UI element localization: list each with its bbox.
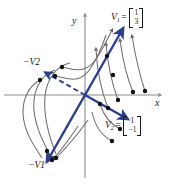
v1-entry-1: 3 bbox=[134, 18, 138, 27]
initial-point bbox=[38, 78, 42, 82]
phase-portrait-canvas bbox=[0, 0, 173, 184]
trajectory-curve bbox=[23, 80, 42, 158]
initial-point bbox=[45, 149, 49, 153]
initial-point bbox=[53, 74, 57, 78]
v2-subscript: 2 bbox=[111, 125, 114, 132]
v1-bracket-left bbox=[129, 8, 133, 28]
trajectory-curve bbox=[62, 30, 112, 70]
initial-point bbox=[54, 156, 58, 160]
v1-bracket-right bbox=[139, 8, 143, 28]
initial-point bbox=[98, 102, 102, 106]
v2-matrix-column: 1 −1 bbox=[127, 116, 138, 136]
eigenvector-neg-v1-label: −V1 bbox=[28, 161, 45, 171]
neg-v1-name: −V bbox=[28, 160, 40, 170]
initial-point bbox=[143, 89, 147, 93]
initial-point bbox=[116, 98, 120, 102]
trajectory-curve bbox=[106, 44, 118, 100]
eigenvector-neg-v2-label: −V2 bbox=[23, 58, 40, 68]
initial-point bbox=[106, 106, 110, 110]
v2-entry-1: −1 bbox=[128, 126, 136, 135]
initial-point bbox=[110, 139, 114, 143]
v1-subscript: 1 bbox=[117, 17, 120, 24]
neg-v2-subscript: 2 bbox=[35, 57, 40, 67]
eigenvector-v2-label: V2 = 1 −1 bbox=[105, 116, 141, 136]
trajectory-curve bbox=[120, 40, 133, 92]
y-axis-label: y bbox=[72, 16, 76, 26]
initial-point bbox=[111, 73, 115, 77]
v1-equals: = bbox=[122, 13, 127, 23]
trajectory-curve bbox=[132, 36, 145, 91]
neg-v2-name: −V bbox=[23, 57, 35, 67]
neg-v1-subscript: 1 bbox=[40, 160, 45, 170]
initial-point bbox=[131, 90, 135, 94]
axis-group bbox=[4, 15, 160, 178]
initial-point bbox=[105, 54, 109, 58]
v2-equals: = bbox=[116, 121, 121, 131]
v2-bracket-right bbox=[137, 116, 141, 136]
v1-matrix: 1 3 bbox=[129, 8, 143, 28]
x-axis-label: x bbox=[155, 98, 159, 108]
initial-point bbox=[50, 158, 54, 162]
eigenvector-v1-label: V1 = 1 3 bbox=[111, 8, 143, 28]
v2-bracket-left bbox=[123, 116, 127, 136]
v2-matrix: 1 −1 bbox=[123, 116, 141, 136]
phase-portrait-figure: y x V1 = 1 3 V2 = 1 −1 −V2 −V bbox=[0, 0, 173, 184]
eigenvector-v1-arrow bbox=[85, 32, 121, 95]
initial-point bbox=[60, 65, 64, 69]
